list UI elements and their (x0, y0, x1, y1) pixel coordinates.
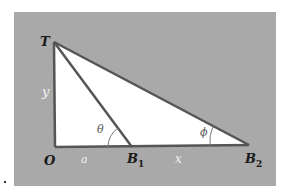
label-theta: θ (97, 124, 104, 135)
label-B2: B2 (245, 152, 262, 169)
label-B2-main: B (245, 151, 256, 166)
label-a: a (81, 154, 88, 165)
segment-TO (54, 42, 55, 147)
label-x: x (175, 153, 182, 165)
label-phi: ϕ (200, 127, 208, 138)
label-B2-sub: 2 (256, 159, 262, 169)
label-T: T (40, 35, 50, 48)
label-B1-sub: 1 (138, 159, 144, 169)
label-O: O (44, 154, 55, 167)
label-B1-main: B (127, 151, 138, 166)
label-B1: B1 (127, 152, 144, 169)
label-y: y (42, 85, 49, 98)
margin-dot (4, 181, 6, 183)
